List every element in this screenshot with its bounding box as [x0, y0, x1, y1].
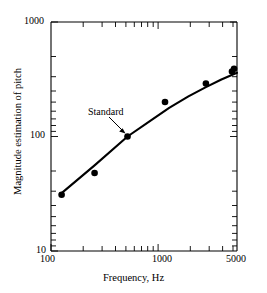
- data-point: [231, 66, 238, 73]
- y-axis-ticks: [51, 22, 58, 251]
- data-point: [124, 133, 131, 140]
- y-tick-label-1000: 1000: [24, 16, 44, 26]
- data-point: [203, 80, 210, 87]
- data-point: [58, 191, 65, 198]
- top-axis-ticks: [83, 22, 233, 29]
- x-tick-label-100: 100: [40, 254, 55, 264]
- data-point: [162, 99, 169, 106]
- data-point: [91, 170, 98, 177]
- axis-lines: [51, 22, 237, 251]
- standard-annotation-label: Standard: [88, 106, 124, 117]
- x-axis-title: Frequency, Hz: [0, 272, 267, 283]
- y-tick-label-100: 100: [30, 130, 45, 140]
- y-axis-title: Magnitude estimation of pitch: [12, 52, 23, 212]
- x-tick-label-5000: 5000: [226, 254, 246, 264]
- x-tick-label-1000: 1000: [152, 254, 172, 264]
- x-axis-ticks: [51, 244, 233, 251]
- right-axis-ticks: [230, 22, 237, 246]
- standard-arrow: [109, 117, 126, 134]
- magnitude-estimation-chart: 1000 100 10 100 1000 5000 Frequency, Hz …: [0, 0, 267, 293]
- fitted-curve: [62, 73, 237, 193]
